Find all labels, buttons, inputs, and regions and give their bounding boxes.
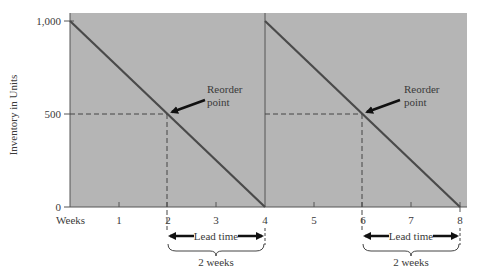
x-tick-label-4: 4 xyxy=(262,214,268,226)
two-weeks-label-2: 2 weeks xyxy=(393,256,429,268)
y-tick-label-500: 500 xyxy=(45,108,62,120)
reorder-label-1-line2: point xyxy=(207,96,230,108)
x-tick-label-3: 3 xyxy=(213,214,219,226)
plot-area xyxy=(70,13,467,207)
two-weeks-label-1: 2 weeks xyxy=(198,256,234,268)
x-tick-label-2: 2 xyxy=(165,214,171,226)
lead-time-label-1: Lead time xyxy=(194,230,238,242)
x-tick-label-8: 8 xyxy=(457,214,463,226)
reorder-label-2-line1: Reorder xyxy=(404,83,440,95)
y-tick-label-0: 0 xyxy=(56,201,62,213)
brace-icon xyxy=(363,244,459,256)
y-tick-label-1000: 1,000 xyxy=(36,15,61,27)
x-tick-label-1: 1 xyxy=(116,214,122,226)
x-tick-label-6: 6 xyxy=(360,214,366,226)
x-tick-label-7: 7 xyxy=(408,214,414,226)
reorder-label-1-line1: Reorder xyxy=(207,83,243,95)
reorder-label-2-line2: point xyxy=(404,96,427,108)
x-axis-title: Weeks xyxy=(56,214,85,226)
inventory-chart: Reorder point Reorder point 1,000 500 0 … xyxy=(0,0,478,276)
lead-time-label-2: Lead time xyxy=(389,230,433,242)
x-tick-label-5: 5 xyxy=(311,214,317,226)
y-axis-title: Inventory in Units xyxy=(7,75,19,156)
brace-icon xyxy=(168,244,264,256)
